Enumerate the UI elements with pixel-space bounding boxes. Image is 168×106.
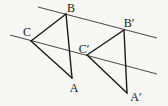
edge-ca [31, 41, 72, 78]
label-c: C [23, 25, 31, 39]
edge-cb [31, 14, 66, 41]
label-b-prime: B′ [124, 16, 135, 30]
label-a-prime: A′ [130, 90, 142, 104]
edge-ba [66, 14, 72, 78]
edge-b-prime-a-prime [124, 30, 127, 93]
label-a: A [70, 81, 79, 95]
label-b: B [67, 1, 75, 15]
label-c-prime: C′ [79, 42, 90, 56]
edge-c-prime-b-prime [87, 30, 124, 55]
geometry-diagram: B C A B′ C′ A′ [0, 0, 168, 106]
